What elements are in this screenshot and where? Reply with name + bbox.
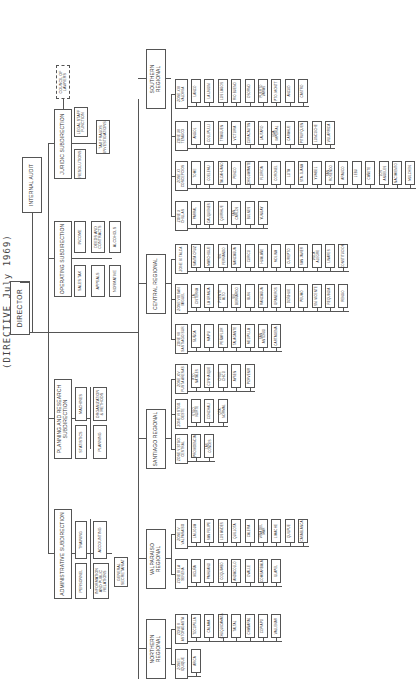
org-chart: (DIRECTIVE July 1969) DIRECTOR INTERNAL … — [0, 0, 416, 699]
office-box: REQUINOA — [325, 284, 335, 308]
office-box: MELIPILLA — [245, 324, 255, 348]
office-box: LAS CONDES — [204, 434, 214, 458]
office-box: CAUQUENES — [204, 201, 214, 225]
office-box: COPIAPO — [258, 614, 268, 638]
unit-planning: PLANNING — [93, 425, 107, 459]
office-box: PUENTE ALTO — [218, 284, 228, 308]
office-box: COQUIMBO — [218, 559, 228, 583]
office-box: SAN CARLOS — [231, 201, 241, 225]
office-box: VILLA ALEGRE — [312, 244, 322, 268]
office-box: DOÑIHUE — [285, 284, 295, 308]
regional-4: SOUTHERN REGIONAL — [146, 49, 166, 109]
general-secretariat: GENERAL SECRETARIAT — [114, 557, 128, 587]
office-box: NANCAGUA — [231, 244, 241, 268]
office-box: TOCOPILLA — [191, 614, 201, 638]
regional-bus — [138, 99, 139, 679]
office-box: VILLARRICA — [325, 121, 335, 145]
office-box: PENCO — [231, 161, 241, 185]
regional-0: NORTHERN REGIONAL — [146, 619, 166, 679]
office-box: NACIMIENTO — [392, 161, 402, 185]
office-box: PEÑAFLOR — [218, 324, 228, 348]
office-box: COLLIPULLI — [204, 121, 214, 145]
office-box: HUALAÑE — [258, 244, 268, 268]
planning-subdirection: PLANNING AND RESEARCH SUBDIRECTION — [54, 379, 72, 459]
office-box: TOME — [191, 161, 201, 185]
office-box: VICUÑA — [191, 559, 201, 583]
regional-1: VALPARAISO REGIONAL — [146, 529, 166, 589]
office-box: MULCHEN — [405, 161, 415, 185]
office-box: GRANEROS — [271, 284, 281, 308]
office-box: LA UNION — [204, 79, 214, 103]
unit-machines: MACHINES — [75, 387, 87, 421]
office-box: QUIRIHUE — [218, 201, 228, 225]
unit-appeals: APPEALS — [91, 265, 105, 297]
office-box: MAIPU — [204, 324, 214, 348]
internal-audit-box: INTERNAL AUDIT — [22, 157, 42, 213]
regional-2: SANTIAGO REGIONAL — [146, 409, 166, 469]
office-box: SN. VICENTE — [312, 284, 322, 308]
office-box: ANCUD — [285, 79, 295, 103]
office-box: PITRUFQUEN — [298, 121, 308, 145]
office-box: VIÑA DEL MAR — [258, 519, 268, 543]
office-box: ANGOL — [191, 121, 201, 145]
zone-box: ZONE I IQUIQUE — [175, 649, 188, 679]
office-box: CONSTITUCION — [338, 244, 348, 268]
office-box: VICTORIA — [231, 121, 241, 145]
office-box: STA. JUANA — [298, 161, 308, 185]
office-box: VALLENAR — [271, 614, 281, 638]
staff-bus — [48, 144, 49, 554]
office-box: TALTAL — [231, 614, 241, 638]
unit-alcohols: ALCOHOLS — [109, 221, 121, 253]
office-box: TRAIGUEN — [218, 121, 228, 145]
office-box: SAN JAVIER — [298, 244, 308, 268]
office-box: CALERA — [245, 519, 255, 543]
office-box: COELEMU — [204, 161, 214, 185]
unit-statistics: STATISTICS — [75, 425, 87, 459]
office-box: YUNGAY — [258, 201, 268, 225]
zone-box: ZONE XII TEMUCO — [175, 121, 188, 151]
zone-box: ZONE III LA SERENA — [175, 559, 188, 589]
administrative-subdirection: ADMINISTRATIVE SUBDIRECTION — [54, 509, 72, 599]
office-box: NVA. IMPERIAL — [271, 121, 281, 145]
office-box: CASTRO — [298, 79, 308, 103]
office-box: CONCHALI — [204, 399, 214, 423]
office-box: TALAGANTE — [231, 324, 241, 348]
office-box: PTO. MONTT — [271, 79, 281, 103]
office-box: PARRAL — [191, 201, 201, 225]
office-box: CAÑETE — [365, 161, 375, 185]
regional-3: CENTRAL REGIONAL — [146, 254, 166, 314]
office-box: FLORIDA — [258, 161, 268, 185]
office-box: CHILE CHICO — [218, 364, 228, 388]
office-box: LINARES — [325, 244, 335, 268]
office-box: PUERTO VARAS — [258, 79, 268, 103]
office-box: PTO. NATALES — [191, 364, 201, 388]
office-box: CURICO — [245, 244, 255, 268]
office-box: LOS ANGELES — [379, 161, 389, 185]
office-box: PAIHUANO — [204, 559, 214, 583]
office-box: MOLINA — [271, 244, 281, 268]
zone-box: ZONE VII SANTIAGO SUR — [175, 324, 188, 354]
office-box: CALAMA — [204, 614, 214, 638]
office-box: ANDACOLLO — [231, 559, 241, 583]
unit-training: TRAINING — [75, 521, 87, 559]
office-box: YUMBEL — [312, 161, 322, 185]
office-box: ÑUÑOA — [191, 324, 201, 348]
unit-income: INCOME — [74, 221, 86, 253]
office-box: SN. FERNANDO — [218, 244, 228, 268]
office-box: PEUMO — [298, 284, 308, 308]
unit-resolutions: RESOLUTIONS — [74, 149, 86, 179]
office-box: PROVIDENCIA — [191, 434, 201, 458]
zone-box: ZONE XI CONCEPCION — [175, 161, 188, 191]
office-box: LOS ANDES — [218, 519, 228, 543]
office-box: LANCO — [191, 79, 201, 103]
office-box: CARTAGENA — [271, 324, 281, 348]
office-box: LA LIGUA — [191, 519, 201, 543]
council-of-lawyers: COUNCIL OF LAWYERS — [56, 65, 70, 99]
zone-box: ZONE V STGO. CENTRAL — [175, 434, 188, 464]
office-box: LOS LAGOS — [218, 79, 228, 103]
office-box: BULNES — [245, 201, 255, 225]
office-box: LAUTARO — [258, 121, 268, 145]
office-box: SAN FELIPE — [204, 519, 214, 543]
office-box: OVALLE — [245, 559, 255, 583]
unit-sales-tax: SALES TAX — [74, 265, 86, 297]
